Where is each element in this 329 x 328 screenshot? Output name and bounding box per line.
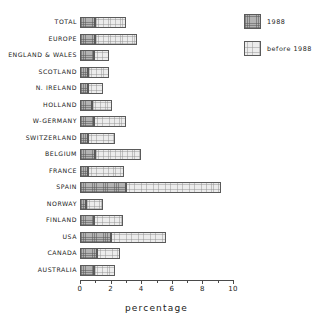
bar-segment-1988 xyxy=(80,17,95,28)
category-label: FRANCE xyxy=(1,168,77,174)
bar-segment-1988 xyxy=(80,83,88,94)
legend-swatch-icon xyxy=(244,14,261,29)
x-tick-minor xyxy=(95,280,96,283)
legend-label: 1988 xyxy=(267,18,285,26)
x-tick-label: 0 xyxy=(78,286,83,293)
bar-segment-before-1988 xyxy=(88,83,103,94)
x-tick-label: 2 xyxy=(108,286,113,293)
bar-segment-before-1988 xyxy=(88,166,125,177)
legend-label: before 1988 xyxy=(267,45,312,53)
bar-segment-1988 xyxy=(80,182,126,193)
x-tick-major xyxy=(202,280,203,284)
x-tick-label: 10 xyxy=(228,286,238,293)
category-label: N. IRELAND xyxy=(1,85,77,91)
chart-container: TOTALEUROPEENGLAND & WALESSCOTLANDN. IRE… xyxy=(0,0,329,328)
bar-segment-1988 xyxy=(80,116,94,127)
bar-segment-before-1988 xyxy=(88,133,116,144)
bar-segment-1988 xyxy=(80,67,88,78)
x-tick-label: 8 xyxy=(200,286,205,293)
category-label: SCOTLAND xyxy=(1,69,77,75)
category-label: ENGLAND & WALES xyxy=(1,52,77,58)
bar-segment-before-1988 xyxy=(126,182,221,193)
plot-area xyxy=(80,16,233,280)
bar-segment-before-1988 xyxy=(95,17,126,28)
x-tick-major xyxy=(233,280,234,284)
bar-segment-before-1988 xyxy=(95,34,136,45)
bar-segment-before-1988 xyxy=(94,50,109,61)
legend-entry[interactable]: 1988 xyxy=(244,14,285,29)
x-tick-major xyxy=(172,280,173,284)
category-label: HOLLAND xyxy=(1,102,77,108)
bar-segment-1988 xyxy=(80,149,95,160)
bar-segment-before-1988 xyxy=(92,100,112,111)
bar-segment-1988 xyxy=(80,34,95,45)
x-tick-minor xyxy=(157,280,158,283)
category-label: TOTAL xyxy=(1,19,77,25)
bar-segment-1988 xyxy=(80,166,88,177)
bar-segment-before-1988 xyxy=(94,116,126,127)
x-tick-minor xyxy=(187,280,188,283)
x-tick-label: 6 xyxy=(169,286,174,293)
bar-segment-before-1988 xyxy=(95,149,141,160)
category-label: SWITZERLAND xyxy=(1,135,77,141)
bar-segment-1988 xyxy=(80,215,94,226)
x-axis-title: percentage xyxy=(80,303,233,313)
bar-segment-1988 xyxy=(80,265,94,276)
bar-segment-before-1988 xyxy=(94,215,123,226)
legend-swatch-icon xyxy=(244,41,261,56)
category-label: FINLAND xyxy=(1,217,77,223)
bar-segment-1988 xyxy=(80,100,92,111)
bar-segment-before-1988 xyxy=(86,199,103,210)
x-tick-major xyxy=(141,280,142,284)
category-label: NORWAY xyxy=(1,201,77,207)
bar-segment-1988 xyxy=(80,232,111,243)
category-label: CANADA xyxy=(1,250,77,256)
x-tick-label: 4 xyxy=(139,286,144,293)
category-label: W-GERMANY xyxy=(1,118,77,124)
x-tick-major xyxy=(80,280,81,284)
bar-segment-before-1988 xyxy=(94,265,115,276)
bar-segment-1988 xyxy=(80,50,94,61)
bar-segment-before-1988 xyxy=(111,232,166,243)
category-label: SPAIN xyxy=(1,184,77,190)
bar-segment-1988 xyxy=(80,133,88,144)
legend-entry[interactable]: before 1988 xyxy=(244,41,312,56)
bar-segment-before-1988 xyxy=(88,67,109,78)
category-label: EUROPE xyxy=(1,36,77,42)
category-label: USA xyxy=(1,234,77,240)
category-axis-labels: TOTALEUROPEENGLAND & WALESSCOTLANDN. IRE… xyxy=(0,16,77,280)
bar-segment-before-1988 xyxy=(97,248,120,259)
bar-segment-1988 xyxy=(80,248,97,259)
category-label: BELGIUM xyxy=(1,151,77,157)
x-tick-major xyxy=(111,280,112,284)
x-tick-minor xyxy=(126,280,127,283)
category-label: AUSTRALIA xyxy=(1,267,77,273)
x-tick-minor xyxy=(218,280,219,283)
